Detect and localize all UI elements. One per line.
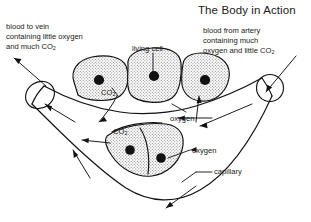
capillary-label: capillary [214,167,242,177]
oxygen-upper-label: oxygen [170,114,195,124]
blood-from-artery-line3: oxygen and little CO2 [203,46,274,56]
nucleus [125,145,135,155]
blood-from-artery-line2: containing much [203,36,274,46]
nucleus [156,153,166,163]
co2-upper-label: CO2 [101,88,115,98]
vein-cut-end [20,76,59,114]
blood-from-artery-label: blood from artery containing much oxygen… [203,26,274,56]
figure-title: The Body in Action [198,3,296,18]
blood-to-vein-line3: and much CO2 [6,42,83,52]
oxygen-lower-label: oxygen [192,146,217,156]
blood-from-artery-line1: blood from artery [203,26,274,36]
figure-canvas: The Body in Action blood to vein contain… [0,0,311,222]
nucleus [200,75,210,85]
blood-to-vein-line2: containing little oxygen [6,32,83,42]
blood-to-vein-line1: blood to vein [6,22,83,32]
co2-lower-label: CO2 [113,127,127,137]
nucleus [149,71,159,81]
nucleus [94,75,104,85]
living-cell-label: living cell [132,44,163,54]
blood-to-vein-label: blood to vein containing little oxygen a… [6,22,83,52]
